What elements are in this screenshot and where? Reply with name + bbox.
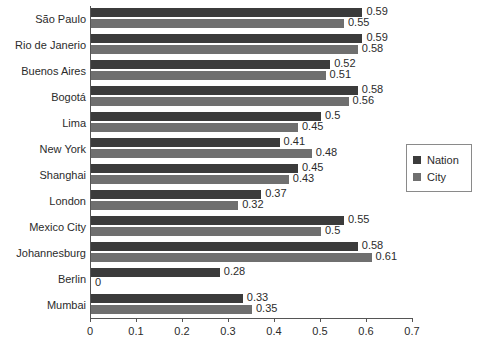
- bar-nation: [91, 294, 243, 303]
- bar-city: [91, 19, 344, 28]
- category-label: Berlin: [0, 266, 86, 292]
- bar-nation: [91, 138, 280, 147]
- bar-value-label: 0.58: [362, 241, 383, 250]
- chart-row: Buenos Aires0.520.51: [0, 58, 480, 84]
- category-label: Lima: [0, 110, 86, 136]
- category-label: Bogotá: [0, 84, 86, 110]
- x-axis-tick: [136, 318, 137, 322]
- legend-label-nation: Nation: [427, 154, 459, 166]
- bar-city: [91, 123, 298, 132]
- bar-value-label: 0.5: [325, 226, 340, 235]
- legend-item-city: City: [413, 168, 465, 185]
- bar-value-label: 0.59: [366, 33, 387, 42]
- bar-nation: [91, 216, 344, 225]
- bar-value-label: 0.55: [348, 18, 369, 27]
- bar-value-label: 0.59: [366, 7, 387, 16]
- category-label: Buenos Aires: [0, 58, 86, 84]
- legend-swatch-nation-icon: [413, 156, 421, 164]
- category-label: London: [0, 188, 86, 214]
- x-axis-tick-label: 0.7: [392, 325, 432, 337]
- bar-city: [91, 175, 289, 184]
- bar-value-label: 0.28: [224, 267, 245, 276]
- bar-value-label: 0.55: [348, 215, 369, 224]
- x-axis-tick: [90, 318, 91, 322]
- bar-value-label: 0.58: [362, 85, 383, 94]
- chart-row: Rio de Janerio0.590.58: [0, 32, 480, 58]
- bar-value-label: 0.43: [293, 174, 314, 183]
- x-axis-tick: [274, 318, 275, 322]
- bar-city: [91, 201, 238, 210]
- bar-value-label: 0.33: [247, 293, 268, 302]
- x-axis-tick-label: 0: [70, 325, 110, 337]
- x-axis-tick-label: 0.5: [300, 325, 340, 337]
- x-axis-tick-label: 0.4: [254, 325, 294, 337]
- x-axis-tick: [182, 318, 183, 322]
- bar-city: [91, 149, 312, 158]
- legend-swatch-city-icon: [413, 173, 421, 181]
- category-label: Johannesburg: [0, 240, 86, 266]
- category-label: Mumbai: [0, 292, 86, 318]
- bar-value-label: 0.58: [362, 44, 383, 53]
- category-label: Rio de Janerio: [0, 32, 86, 58]
- bar-city: [91, 71, 326, 80]
- bar-value-label: 0.45: [302, 122, 323, 131]
- bar-value-label: 0.52: [334, 59, 355, 68]
- bar-value-label: 0.32: [242, 200, 263, 209]
- bar-nation: [91, 60, 330, 69]
- x-axis-tick: [228, 318, 229, 322]
- bar-value-label: 0.41: [284, 137, 305, 146]
- bar-city: [91, 227, 321, 236]
- x-axis-tick: [320, 318, 321, 322]
- bar-city: [91, 305, 252, 314]
- x-axis-tick-label: 0.3: [208, 325, 248, 337]
- bar-nation: [91, 34, 362, 43]
- bar-city: [91, 45, 358, 54]
- x-axis-tick-label: 0.6: [346, 325, 386, 337]
- chart-legend: Nation City: [406, 144, 472, 192]
- chart-row: Johannesburg0.580.61: [0, 240, 480, 266]
- bar-value-label: 0.48: [316, 148, 337, 157]
- category-label: São Paulo: [0, 6, 86, 32]
- x-axis-line: [90, 318, 413, 319]
- chart-row: Berlin0.280: [0, 266, 480, 292]
- category-label: New York: [0, 136, 86, 162]
- bar-value-label: 0.61: [376, 252, 397, 261]
- x-axis-tick-label: 0.2: [162, 325, 202, 337]
- legend-label-city: City: [427, 171, 446, 183]
- bar-nation: [91, 8, 362, 17]
- chart-row: Lima0.50.45: [0, 110, 480, 136]
- bar-nation: [91, 164, 298, 173]
- x-axis-tick-label: 0.1: [116, 325, 156, 337]
- bar-nation: [91, 112, 321, 121]
- x-axis-tick: [366, 318, 367, 322]
- chart-row: São Paulo0.590.55: [0, 6, 480, 32]
- category-label: Mexico City: [0, 214, 86, 240]
- bar-nation: [91, 242, 358, 251]
- bar-city: [91, 253, 372, 262]
- bar-value-label: 0.45: [302, 163, 323, 172]
- chart-row: Bogotá0.580.56: [0, 84, 480, 110]
- bar-value-label: 0.5: [325, 111, 340, 120]
- chart-row: Mumbai0.330.35: [0, 292, 480, 318]
- bar-nation: [91, 86, 358, 95]
- bar-value-label: 0.51: [330, 70, 351, 79]
- bar-chart: São Paulo0.590.55Rio de Janerio0.590.58B…: [0, 0, 480, 352]
- chart-row: Mexico City0.550.5: [0, 214, 480, 240]
- category-label: Shanghai: [0, 162, 86, 188]
- bar-nation: [91, 268, 220, 277]
- bar-value-label: 0.37: [265, 189, 286, 198]
- bar-city: [91, 97, 349, 106]
- bar-value-label: 0.35: [256, 304, 277, 313]
- legend-item-nation: Nation: [413, 151, 465, 168]
- bar-nation: [91, 190, 261, 199]
- x-axis-tick: [412, 318, 413, 322]
- bar-value-label: 0: [95, 278, 101, 287]
- bar-value-label: 0.56: [353, 96, 374, 105]
